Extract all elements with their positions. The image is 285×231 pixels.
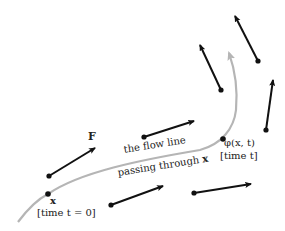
phi-point-label: φ(x, t) xyxy=(224,138,255,148)
end-time-label: [time t] xyxy=(220,151,258,161)
arrow-shaft xyxy=(111,186,163,205)
arrow-shaft xyxy=(194,184,251,193)
arrow-shaft xyxy=(266,80,273,130)
vector-arrow-v4 xyxy=(191,184,251,196)
start-time-label: [time t = 0] xyxy=(37,208,96,218)
vector-arrow-F xyxy=(46,148,95,179)
flow-line-diagram xyxy=(0,0,285,231)
vector-field-label: F xyxy=(88,131,96,142)
arrow-shaft xyxy=(49,148,95,176)
arrow-tail-dot xyxy=(46,173,51,178)
arrow-tail-dot xyxy=(191,190,196,195)
vector-arrow-v7 xyxy=(263,80,273,133)
arrow-tail-dot xyxy=(141,134,146,139)
vector-arrow-v6 xyxy=(235,16,261,64)
arrow-tail-dot xyxy=(263,127,268,132)
vector-arrow-v3 xyxy=(108,186,163,208)
vector-arrow-v5 xyxy=(200,45,224,93)
arrow-shaft xyxy=(200,45,221,90)
arrow-tail-dot xyxy=(255,58,260,63)
arrow-shaft xyxy=(235,16,258,61)
arrow-tail-dot xyxy=(108,202,113,207)
arrow-tail-dot xyxy=(218,87,223,92)
start-point-label: x xyxy=(50,196,56,206)
flow-line-label-var: x xyxy=(201,153,209,165)
arrow-shaft xyxy=(144,121,194,137)
